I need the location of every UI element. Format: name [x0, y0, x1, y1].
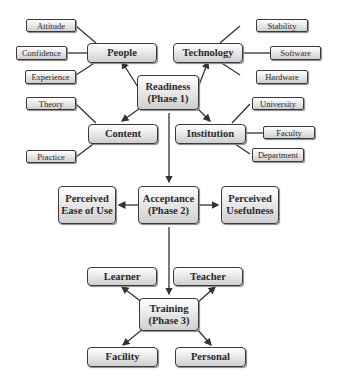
readiness-title: Readiness	[146, 81, 191, 93]
personal-node: Personal	[175, 347, 246, 367]
faculty-label: Faculty	[276, 128, 302, 138]
peou-line1: Perceived	[65, 193, 109, 205]
content-node: Content	[88, 124, 158, 144]
institution-label: Institution	[187, 128, 234, 140]
acceptance-node: Acceptance (Phase 2)	[138, 186, 199, 224]
department-node: Department	[252, 148, 304, 162]
learner-label: Learner	[104, 271, 141, 283]
practice-node: Practice	[26, 150, 76, 163]
university-label: University	[260, 99, 296, 109]
facility-node: Facility	[87, 347, 158, 367]
pu-line1: Perceived	[228, 193, 272, 205]
confidence-label: Confidence	[22, 48, 61, 58]
stability-label: Stability	[268, 21, 297, 31]
stability-node: Stability	[256, 19, 308, 32]
teacher-label: Teacher	[190, 271, 226, 283]
experience-node: Experience	[25, 70, 76, 84]
people-node: People	[87, 43, 157, 63]
acceptance-title: Acceptance	[143, 193, 194, 205]
facility-label: Facility	[106, 351, 140, 363]
hardware-label: Hardware	[265, 72, 299, 82]
personal-label: Personal	[191, 351, 230, 363]
pu-line2: Usefulness	[226, 205, 273, 217]
university-node: University	[252, 97, 304, 110]
hardware-node: Hardware	[256, 70, 308, 84]
readiness-phase: (Phase 1)	[147, 93, 188, 105]
training-phase: (Phase 3)	[148, 315, 189, 327]
perceived-ease-of-use-node: Perceived Ease of Use	[58, 186, 116, 224]
training-node: Training (Phase 3)	[139, 298, 199, 331]
attitude-node: Attitude	[26, 19, 76, 32]
perceived-usefulness-node: Perceived Usefulness	[221, 186, 279, 224]
department-label: Department	[258, 150, 298, 160]
technology-node: Technology	[173, 43, 243, 63]
teacher-node: Teacher	[173, 267, 243, 286]
readiness-node: Readiness (Phase 1)	[137, 75, 199, 110]
software-node: Software	[270, 46, 321, 60]
attitude-label: Attitude	[37, 21, 65, 31]
acceptance-phase: (Phase 2)	[148, 205, 189, 217]
training-title: Training	[150, 303, 189, 315]
faculty-node: Faculty	[263, 126, 315, 139]
institution-node: Institution	[175, 124, 246, 144]
people-label: People	[107, 47, 137, 59]
peou-line2: Ease of Use	[61, 205, 112, 217]
confidence-node: Confidence	[16, 46, 67, 60]
theory-node: Theory	[26, 97, 76, 110]
software-label: Software	[280, 48, 311, 58]
theory-label: Theory	[39, 99, 64, 109]
learner-node: Learner	[87, 267, 157, 286]
technology-label: Technology	[183, 47, 234, 59]
experience-label: Experience	[31, 72, 69, 82]
practice-label: Practice	[37, 152, 64, 162]
content-label: Content	[105, 128, 141, 140]
